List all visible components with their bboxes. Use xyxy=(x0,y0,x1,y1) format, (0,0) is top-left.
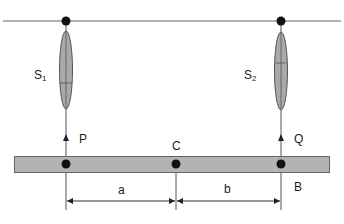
arrow-up-q-icon xyxy=(278,134,284,141)
label-s1-main: S xyxy=(34,68,42,82)
label-point-c: C xyxy=(172,140,181,152)
label-s1-sub: 1 xyxy=(42,74,46,83)
top-pivot-left-dot xyxy=(62,17,71,26)
top-pivot-right-dot xyxy=(277,17,286,26)
arrow-up-p-icon xyxy=(63,134,69,141)
label-dimension-b: b xyxy=(224,183,231,195)
label-spring-s1: S1 xyxy=(34,69,46,83)
beam-spring-diagram xyxy=(0,0,344,224)
label-point-b: B xyxy=(294,181,302,193)
label-s2-main: S xyxy=(244,68,252,82)
beam-point-c-dot xyxy=(172,160,181,169)
label-point-p: P xyxy=(79,133,87,145)
spring-s2 xyxy=(275,32,288,110)
label-dimension-a: a xyxy=(118,184,125,196)
beam-point-q-dot xyxy=(277,160,286,169)
label-point-q: Q xyxy=(294,133,303,145)
label-s2-sub: 2 xyxy=(252,74,256,83)
diagram-canvas: S1 S2 P Q C B a b xyxy=(0,0,344,224)
spring-s1 xyxy=(60,31,73,109)
label-spring-s2: S2 xyxy=(244,69,256,83)
beam-point-p-dot xyxy=(62,160,71,169)
